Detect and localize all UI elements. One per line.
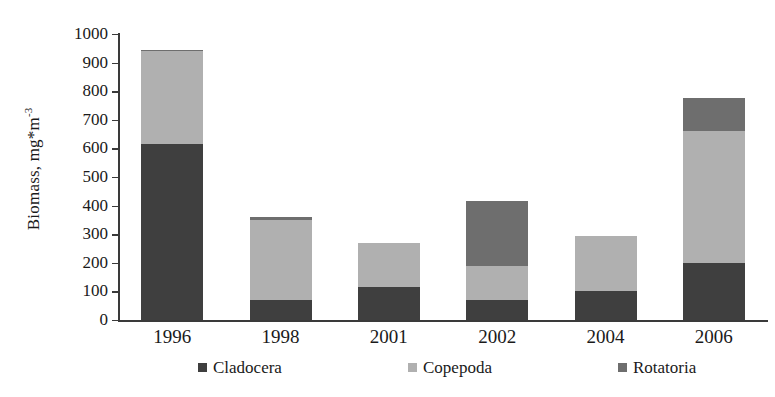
bar-segment-rotatoria	[466, 201, 528, 265]
legend-label: Copepoda	[423, 358, 492, 377]
bar-segment-cladocera	[141, 144, 203, 320]
bar-2001	[358, 243, 420, 320]
y-tick-label: 500	[56, 168, 108, 185]
y-axis-tick-labels: 10009008007006005004003002001000	[56, 0, 108, 397]
legend-swatch-icon	[198, 363, 207, 372]
y-tick-label: 300	[56, 225, 108, 242]
x-axis-tick-labels: 199619982001200220042006	[118, 326, 768, 354]
y-tick-label: 600	[56, 139, 108, 156]
y-tick-label: 1000	[56, 25, 108, 42]
x-tick-label-2004: 2004	[561, 326, 651, 348]
x-tick-label-2002: 2002	[452, 326, 542, 348]
bar-2004	[575, 236, 637, 320]
y-tick-label: 900	[56, 54, 108, 71]
bar-segment-copepoda	[250, 220, 312, 300]
y-tick-label: 200	[56, 254, 108, 271]
legend-swatch-icon	[618, 363, 627, 372]
chart-container: Biomass, mg*m-3 100090080070060050040030…	[0, 0, 775, 397]
x-axis-line	[118, 320, 768, 322]
legend-swatch-icon	[408, 363, 417, 372]
y-axis-title-exponent: -3	[22, 107, 34, 117]
bar-segment-copepoda	[466, 266, 528, 300]
legend-item-rotatoria[interactable]: Rotatoria	[618, 358, 696, 377]
bar-segment-copepoda	[358, 243, 420, 287]
legend-label: Rotatoria	[633, 358, 696, 377]
bar-2006	[683, 98, 745, 320]
plot-area	[118, 34, 768, 320]
legend-item-copepoda[interactable]: Copepoda	[408, 358, 492, 377]
y-tick-label: 0	[56, 311, 108, 328]
y-tick-label: 700	[56, 111, 108, 128]
x-tick-label-2006: 2006	[669, 326, 759, 348]
y-tick-mark	[112, 320, 119, 321]
bar-segment-copepoda	[575, 236, 637, 292]
y-tick-label: 400	[56, 197, 108, 214]
bar-1998	[250, 217, 312, 320]
bar-segment-copepoda	[683, 131, 745, 263]
y-tick-label: 800	[56, 82, 108, 99]
x-tick-label-1996: 1996	[127, 326, 217, 348]
bar-segment-cladocera	[466, 300, 528, 320]
bar-segment-cladocera	[575, 291, 637, 320]
bar-2002	[466, 201, 528, 320]
y-tick-label: 100	[56, 282, 108, 299]
y-axis-title: Biomass, mg*m-3	[22, 59, 44, 279]
chart-legend: CladoceraCopepodaRotatoria	[118, 358, 768, 384]
bar-segment-cladocera	[250, 300, 312, 320]
bar-segment-cladocera	[358, 287, 420, 320]
legend-item-cladocera[interactable]: Cladocera	[198, 358, 282, 377]
y-axis-title-text: Biomass, mg*m	[24, 117, 43, 230]
bar-1996	[141, 50, 203, 320]
bar-segment-copepoda	[141, 51, 203, 144]
x-tick-label-2001: 2001	[344, 326, 434, 348]
bar-segment-rotatoria	[683, 98, 745, 131]
legend-label: Cladocera	[213, 358, 282, 377]
x-tick-label-1998: 1998	[236, 326, 326, 348]
bar-segment-cladocera	[683, 263, 745, 320]
